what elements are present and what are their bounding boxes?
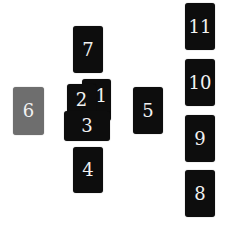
card-8[interactable]: 8 — [185, 170, 215, 217]
card-number: 2 — [76, 91, 87, 109]
card-number: 8 — [194, 185, 205, 203]
card-number: 7 — [82, 41, 93, 59]
card-4[interactable]: 4 — [73, 147, 103, 193]
card-6[interactable]: 6 — [13, 87, 44, 135]
card-number: 6 — [23, 102, 34, 120]
card-number: 1 — [96, 87, 107, 105]
card-2[interactable]: 2 — [67, 84, 96, 114]
card-5[interactable]: 5 — [133, 87, 163, 134]
card-11[interactable]: 11 — [185, 3, 215, 50]
card-9[interactable]: 9 — [185, 115, 215, 162]
card-number: 4 — [82, 161, 93, 179]
card-number: 3 — [81, 117, 92, 135]
card-number: 5 — [142, 102, 153, 120]
card-7[interactable]: 7 — [73, 26, 103, 73]
card-3[interactable]: 3 — [64, 111, 110, 141]
card-number: 11 — [189, 18, 212, 36]
card-10[interactable]: 10 — [185, 59, 215, 106]
card-number: 10 — [189, 74, 212, 92]
card-number: 9 — [194, 130, 205, 148]
